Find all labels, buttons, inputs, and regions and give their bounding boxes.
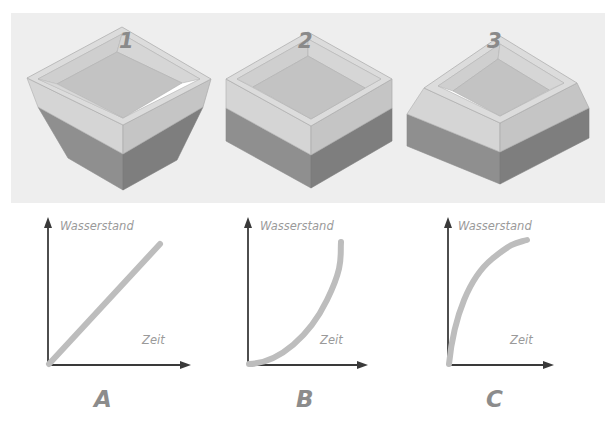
graph-c-x-axis-arrow bbox=[543, 361, 554, 369]
graph-c-y-axis-label: Wasserstand bbox=[458, 219, 532, 233]
graph-a-x-axis-label: Zeit bbox=[142, 333, 165, 347]
graph-a-letter: A bbox=[94, 386, 112, 412]
vessel-3-number: 3 bbox=[487, 29, 502, 53]
graph-c-y-axis-arrow bbox=[444, 217, 452, 228]
graph-b-x-axis-label: Zeit bbox=[320, 333, 343, 347]
graph-a-x-axis-arrow bbox=[180, 361, 191, 369]
graph-c-x-axis-label: Zeit bbox=[510, 333, 533, 347]
graph-b-letter: B bbox=[296, 386, 314, 412]
graph-b-y-axis-arrow bbox=[244, 217, 252, 228]
graph-b-y-axis-label: Wasserstand bbox=[260, 219, 334, 233]
vessel-2-graphic bbox=[226, 32, 392, 188]
graph-c: Wasserstand Zeit C bbox=[400, 205, 605, 425]
graph-c-letter: C bbox=[486, 386, 503, 412]
graph-b-x-axis-arrow bbox=[357, 361, 368, 369]
figure-root: 1 2 3 Wasserstand Zeit A Wasserstand bbox=[0, 0, 616, 425]
vessels-panel: 1 2 3 bbox=[11, 13, 605, 203]
vessel-3-graphic bbox=[407, 36, 589, 184]
graph-b: Wasserstand Zeit B bbox=[200, 205, 405, 425]
vessel-2-number: 2 bbox=[298, 29, 313, 53]
vessel-1-number: 1 bbox=[119, 29, 134, 53]
graph-a: Wasserstand Zeit A bbox=[0, 205, 205, 425]
graph-a-y-axis-arrow bbox=[44, 217, 52, 228]
graph-a-y-axis-label: Wasserstand bbox=[60, 219, 134, 233]
